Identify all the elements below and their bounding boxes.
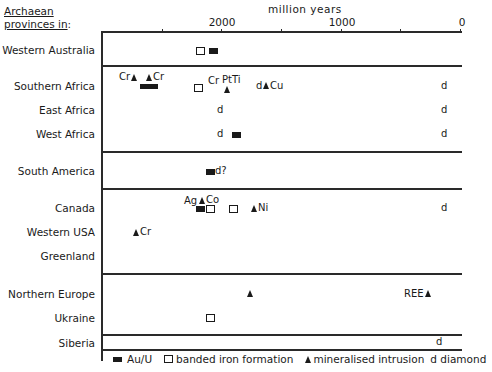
au-u-marker <box>196 206 205 212</box>
y-axis-header: Archaean provinces in: <box>4 5 71 31</box>
diamond-marker: d <box>441 104 447 115</box>
legend-diamond-label: d diamond <box>430 353 486 365</box>
legend-intrusion-icon <box>305 356 311 363</box>
tick-0 <box>460 29 461 33</box>
header-line2: provinces in <box>4 18 68 30</box>
province-east-africa: East Africa <box>0 104 95 116</box>
au-u-marker <box>206 169 215 175</box>
diamond-uncertain-marker: d? <box>215 165 227 176</box>
annotation-cu: Cu <box>270 80 283 91</box>
intrusion-marker <box>263 82 269 89</box>
annotation-cr: Cr <box>119 71 130 82</box>
diamond-marker: d <box>217 128 223 139</box>
legend-au-u-icon <box>113 357 122 362</box>
annotation-ag: Ag <box>184 195 197 206</box>
annotation-cr: Cr <box>153 71 164 82</box>
bif-marker <box>206 314 215 322</box>
tick-1500 <box>281 29 282 33</box>
bottom-axis-line <box>102 349 462 351</box>
annotation-cr: Cr <box>208 75 219 86</box>
intrusion-marker <box>247 290 253 297</box>
province-northern-europe: Northern Europe <box>0 288 95 300</box>
intrusion-marker <box>425 290 431 297</box>
diamond-marker: d <box>441 80 447 91</box>
annotation-cr: Cr <box>140 226 151 237</box>
diamond-marker: d <box>441 202 447 213</box>
group-separator <box>102 188 462 190</box>
x-axis-title: million years <box>268 3 342 15</box>
intrusion-marker <box>224 86 230 93</box>
bif-marker <box>206 205 215 213</box>
au-u-marker <box>232 132 241 138</box>
province-greenland: Greenland <box>0 250 95 262</box>
tick-1000 <box>341 29 342 33</box>
group-separator <box>102 151 462 153</box>
tick-2000 <box>221 29 222 33</box>
legend-intrusion-label: mineralised intrusion <box>313 353 424 365</box>
province-canada: Canada <box>0 202 95 214</box>
tick-label-2000: 2000 <box>209 16 236 28</box>
tick-500 <box>400 29 401 33</box>
bif-marker <box>196 47 205 55</box>
intrusion-marker <box>131 74 137 81</box>
group-separator <box>102 334 462 336</box>
diamond-marker: d <box>441 128 447 139</box>
y-axis-line <box>101 31 103 361</box>
intrusion-marker <box>133 229 139 236</box>
legend-au-u-label: Au/U <box>127 353 152 365</box>
group-separator <box>102 273 462 275</box>
province-siberia: Siberia <box>0 337 95 349</box>
province-west-africa: West Africa <box>0 128 95 140</box>
bif-marker <box>194 84 203 92</box>
annotation-ni: Ni <box>258 202 268 213</box>
header-line1: Archaean <box>4 5 54 17</box>
tick-label-1000: 1000 <box>329 16 356 28</box>
annotation-co: Co <box>206 194 219 205</box>
au-u-marker <box>209 48 218 54</box>
bif-marker <box>229 205 238 213</box>
header-colon: : <box>68 18 72 30</box>
intrusion-marker <box>146 74 152 81</box>
au-u-range-marker <box>140 84 158 89</box>
tick-2500 <box>162 29 163 33</box>
tick-label-0: 0 <box>459 16 466 28</box>
intrusion-marker <box>251 205 257 212</box>
group-separator <box>102 65 462 67</box>
legend-bif-label: banded iron formation <box>176 353 293 365</box>
diamond-marker: d <box>436 336 442 347</box>
legend-bif-icon <box>164 355 173 363</box>
diamond-marker: d <box>256 80 262 91</box>
province-south-america: South America <box>0 165 95 177</box>
province-western-australia: Western Australia <box>0 44 95 56</box>
province-southern-africa: Southern Africa <box>0 80 95 92</box>
province-western-usa: Western USA <box>0 226 95 238</box>
annotation-ptti: PtTi <box>222 74 241 85</box>
province-ukraine: Ukraine <box>0 312 95 324</box>
diamond-marker: d <box>217 104 223 115</box>
annotation-ree: REE <box>404 288 424 299</box>
legend: Au/Ubanded iron formationmineralised int… <box>113 352 486 365</box>
intrusion-marker <box>199 197 205 204</box>
